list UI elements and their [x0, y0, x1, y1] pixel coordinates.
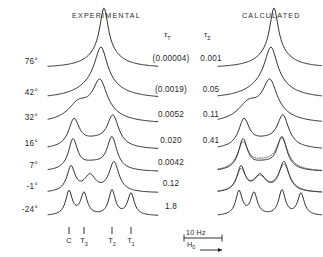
peak-label-t2: T2 [104, 236, 120, 247]
tau-sigma-value-row-0: 0.001 [194, 54, 228, 63]
tau-t-value-row-2: 0.0052 [148, 110, 194, 119]
calculated-column-title: CALCULATED [242, 11, 301, 20]
tau-sigma-value-row-1: 0.05 [194, 85, 228, 94]
experimental-column-title: EXPERIMENTAL [72, 11, 141, 20]
trace-calculated-row-4-dotted [218, 138, 322, 171]
spectra-traces [0, 0, 323, 257]
trace-calculated-row-4 [218, 137, 322, 171]
trace-calculated-row-6 [218, 189, 322, 214]
peak-label-subscript: 3 [85, 241, 88, 247]
tau-sigma-subscript: Σ [207, 35, 210, 41]
scale-bar-label: 10 Hz [186, 228, 206, 237]
trace-experimental-row-6 [48, 189, 158, 215]
tau-t-value-row-0: (0.00004) [148, 54, 194, 63]
field-axis-subscript: 0 [192, 244, 195, 250]
temperature-label-row-2: 32° [4, 113, 38, 122]
peak-label-subscript: 1 [132, 241, 135, 247]
peak-label-t3: T3 [76, 236, 92, 247]
trace-experimental-row-5 [48, 161, 158, 192]
trace-calculated-row-5 [218, 161, 322, 192]
peak-label-c: C [61, 236, 77, 245]
field-arrow-head [218, 248, 222, 252]
tau-t-value-row-5: 0.12 [148, 179, 194, 188]
tau-t-value-row-4: 0.0042 [148, 158, 194, 167]
tau-t-value-row-3: 0.020 [148, 136, 194, 145]
field-axis-label: H0 [187, 240, 195, 250]
trace-experimental-row-4 [48, 137, 158, 171]
tau-t-column-header: τT [164, 30, 171, 41]
temperature-label-row-5: -1° [4, 182, 38, 191]
peak-label-t1: T1 [123, 236, 139, 247]
tau-sigma-value-row-3: 0.41 [194, 136, 228, 145]
tau-sigma-value-row-2: 0.11 [194, 110, 228, 119]
temperature-label-row-4: 7° [4, 161, 38, 170]
peak-label-subscript: 2 [113, 241, 116, 247]
trace-calculated-row-2 [218, 79, 322, 121]
peak-label-main: C [66, 236, 71, 245]
temperature-label-row-3: 16° [4, 139, 38, 148]
nmr-lineshape-figure: EXPERIMENTAL CALCULATED τT τΣ 76°42°32°1… [0, 0, 323, 257]
temperature-label-row-6: -24° [4, 205, 38, 214]
temperature-label-row-0: 76° [4, 57, 38, 66]
tau-t-value-row-1: (0.0019) [148, 85, 194, 94]
temperature-label-row-1: 42° [4, 88, 38, 97]
tau-t-subscript: T [167, 35, 170, 41]
trace-experimental-row-2 [48, 79, 158, 122]
tau-sigma-column-header: τΣ [204, 30, 211, 41]
tau-t-value-row-6: 1.8 [148, 202, 194, 211]
trace-calculated-row-3 [218, 115, 322, 148]
trace-calculated-row-1 [218, 47, 322, 96]
trace-experimental-row-1 [48, 47, 158, 96]
